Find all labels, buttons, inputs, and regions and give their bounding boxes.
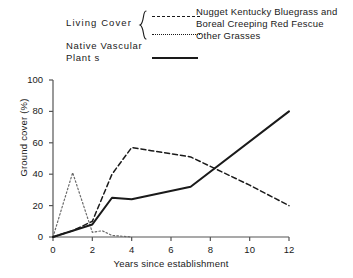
legend-entry-label-other-grasses: Other Grasses (196, 30, 353, 42)
series-line (53, 173, 132, 237)
series-line (53, 111, 289, 237)
legend-entry-label-nugget-bluegrass-fescue: Nugget Kentucky Bluegrass and Boreal Cre… (196, 6, 353, 29)
x-tick-label: 8 (198, 244, 222, 255)
y-tick-label: 60 (13, 137, 43, 148)
legend-swatch-solid (152, 57, 198, 59)
legend-group-label-native-vascular-plants: Native Vascular Plant s (66, 40, 156, 63)
x-tick-label: 10 (238, 244, 262, 255)
x-tick-label: 0 (41, 244, 65, 255)
x-tick-label: 6 (159, 244, 183, 255)
legend-group-label-living-cover: Living Cover (66, 17, 132, 29)
y-tick-label: 20 (13, 200, 43, 211)
legend-swatch-dashed (152, 16, 200, 17)
axes (49, 80, 289, 241)
chart-legend: Living Cover Native Vascular Plant s Nug… (0, 0, 353, 72)
chart-figure: Living Cover Native Vascular Plant s Nug… (0, 0, 353, 278)
y-tick-label: 100 (13, 74, 43, 85)
y-tick-label: 80 (13, 105, 43, 116)
y-tick-label: 0 (13, 231, 43, 242)
plot-area: Ground cover (%) Years since establishme… (0, 70, 353, 278)
x-tick-label: 4 (120, 244, 144, 255)
legend-swatch-dotted (152, 34, 200, 35)
series-line (53, 148, 289, 237)
x-axis-title: Years since establishment (53, 258, 289, 269)
data-series (53, 111, 289, 237)
curly-brace-icon (138, 10, 148, 40)
x-tick-label: 2 (80, 244, 104, 255)
x-tick-label: 12 (277, 244, 301, 255)
y-tick-label: 40 (13, 168, 43, 179)
